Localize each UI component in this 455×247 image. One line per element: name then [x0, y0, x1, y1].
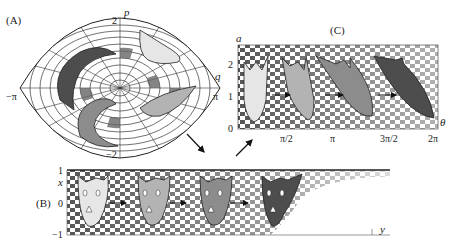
tick-x-neg1: −1 [52, 229, 63, 240]
tick-theta-pi: π [330, 133, 335, 144]
panel-a-label: (A) [6, 14, 22, 27]
tick-theta-2pi: 2π [428, 133, 438, 144]
axis-label-theta: θ [440, 116, 446, 128]
tick-x-0: 0 [58, 198, 63, 209]
axis-label-q: q [215, 70, 221, 82]
panel-a: (A) [6, 6, 221, 160]
axis-label-p: p [123, 6, 130, 18]
tick-a-2: 2 [228, 59, 233, 70]
panel-c: (C) a 0 1 2 π/2 π 3π/2 2π θ [228, 24, 446, 144]
panel-b: (B) 1 x 0 −1 y [36, 165, 390, 240]
figure-canvas: (A) [0, 0, 455, 247]
tick-p-neg2: −2 [106, 149, 117, 160]
arrow-a-to-b [187, 134, 204, 152]
tick-p-2: 2 [112, 15, 117, 26]
axis-label-a: a [236, 32, 242, 44]
tick-q-neg-pi: −π [6, 91, 17, 102]
tick-a-1: 1 [228, 91, 233, 102]
tick-x-1: 1 [58, 165, 63, 176]
arrow-b-to-c [236, 140, 252, 156]
tick-theta-pi-2: π/2 [280, 133, 293, 144]
tick-q-pi: π [213, 91, 218, 102]
axis-label-x: x [57, 176, 63, 188]
axis-label-y: y [379, 223, 385, 235]
panel-b-label: (B) [36, 197, 51, 210]
tick-theta-3pi-2: 3π/2 [380, 133, 398, 144]
tick-a-0: 0 [228, 123, 233, 134]
panel-c-label: (C) [330, 24, 345, 37]
